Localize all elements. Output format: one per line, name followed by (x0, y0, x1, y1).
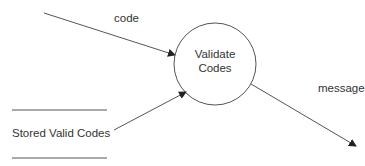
process-label-line2: Codes (175, 61, 255, 75)
data-store-label: Stored Valid Codes (12, 128, 110, 140)
code-flow-label: code (114, 13, 139, 25)
stored-codes-flow-arrow (114, 92, 186, 130)
message-flow-label: message (318, 83, 365, 95)
process-label-line1: Validate (175, 47, 255, 61)
code-flow-arrow (44, 13, 175, 55)
validate-codes-process-label: Validate Codes (175, 47, 255, 75)
